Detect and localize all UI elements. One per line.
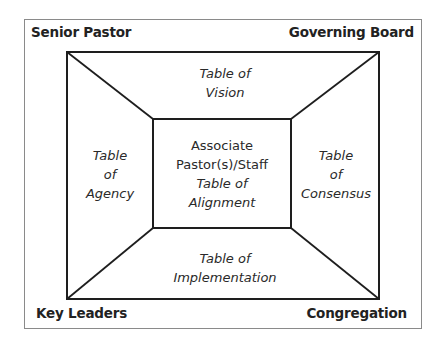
center-line: Associate (191, 136, 253, 155)
diagonal-top-right (291, 52, 379, 119)
corner-key-leaders: Key Leaders (36, 305, 127, 321)
table-of-vision-label: Table of Vision (150, 64, 300, 102)
label-line: Implementation (150, 268, 300, 287)
label-line: Vision (150, 83, 300, 102)
diagonal-bottom-right (291, 228, 379, 299)
table-of-implementation-label: Table of Implementation (150, 249, 300, 287)
diagonal-top-left (67, 52, 153, 119)
table-of-agency-label: Table of Agency (70, 146, 150, 203)
corner-governing-board: Governing Board (289, 24, 414, 40)
label-line: Consensus (296, 184, 376, 203)
diagonal-bottom-left (67, 228, 153, 299)
label-line: of (70, 165, 150, 184)
center-line: Pastor(s)/Staff (176, 155, 268, 174)
label-line: of (296, 165, 376, 184)
label-line: Agency (70, 184, 150, 203)
corner-senior-pastor: Senior Pastor (31, 24, 131, 40)
center-line: Table of (196, 174, 247, 193)
label-line: Table of (150, 64, 300, 83)
label-line: Table (70, 146, 150, 165)
center-alignment-label: Associate Pastor(s)/Staff Table of Align… (153, 119, 291, 228)
label-line: Table (296, 146, 376, 165)
center-line: Alignment (189, 193, 256, 212)
table-of-consensus-label: Table of Consensus (296, 146, 376, 203)
corner-congregation: Congregation (306, 305, 407, 321)
label-line: Table of (150, 249, 300, 268)
